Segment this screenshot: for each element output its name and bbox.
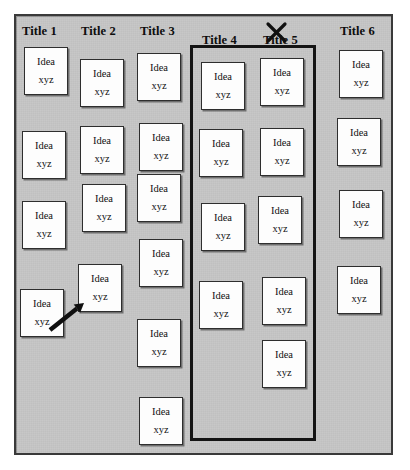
idea-card[interactable]: Ideaxyz (337, 118, 381, 166)
idea-card-body: xyz (215, 231, 230, 242)
idea-card-title: Idea (150, 329, 168, 340)
idea-card-body: xyz (36, 159, 51, 170)
idea-card[interactable]: Ideaxyz (80, 59, 124, 107)
idea-card[interactable]: Ideaxyz (139, 239, 183, 287)
idea-card-title: Idea (212, 139, 230, 150)
idea-card-title: Idea (271, 206, 289, 217)
idea-card-title: Idea (350, 276, 368, 287)
idea-card-title: Idea (33, 299, 51, 310)
idea-card-body: xyz (94, 87, 109, 98)
idea-card[interactable]: Ideaxyz (78, 264, 122, 312)
idea-card[interactable]: Ideaxyz (199, 281, 243, 329)
idea-card[interactable]: Ideaxyz (139, 123, 183, 171)
idea-card-body: xyz (151, 347, 166, 358)
idea-card-body: xyz (153, 425, 168, 436)
idea-card-title: Idea (35, 211, 53, 222)
idea-card-body: xyz (213, 157, 228, 168)
idea-card-title: Idea (350, 128, 368, 139)
idea-card-body: xyz (213, 309, 228, 320)
idea-card[interactable]: Ideaxyz (137, 53, 181, 101)
idea-card-body: xyz (272, 224, 287, 235)
idea-card-body: xyz (276, 368, 291, 379)
idea-card[interactable]: Ideaxyz (339, 190, 383, 238)
idea-card[interactable]: Ideaxyz (137, 319, 181, 367)
idea-card-body: xyz (151, 202, 166, 213)
idea-card-body: xyz (36, 229, 51, 240)
idea-card-title: Idea (273, 138, 291, 149)
idea-card-title: Idea (275, 350, 293, 361)
column-title-5[interactable]: Title 5 (263, 33, 298, 48)
idea-card-body: xyz (151, 81, 166, 92)
idea-card-body: xyz (153, 151, 168, 162)
idea-card[interactable]: Ideaxyz (260, 128, 304, 176)
idea-card-title: Idea (93, 136, 111, 147)
column-title-6[interactable]: Title 6 (340, 24, 375, 39)
idea-card-body: xyz (94, 154, 109, 165)
idea-card-title: Idea (273, 68, 291, 79)
idea-card-title: Idea (152, 133, 170, 144)
idea-card[interactable]: Ideaxyz (22, 201, 66, 249)
idea-card-body: xyz (34, 317, 49, 328)
idea-card-title: Idea (95, 194, 113, 205)
column-title-3[interactable]: Title 3 (140, 24, 175, 39)
idea-card-body: xyz (351, 294, 366, 305)
idea-card-body: xyz (96, 212, 111, 223)
idea-card-body: xyz (153, 267, 168, 278)
idea-card-title: Idea (91, 274, 109, 285)
idea-card[interactable]: Ideaxyz (201, 62, 245, 110)
idea-card-title: Idea (352, 60, 370, 71)
idea-board-root: Title 1Title 2Title 3Title 4Title 5Title… (0, 0, 410, 470)
idea-card-body: xyz (276, 305, 291, 316)
idea-card-body: xyz (38, 75, 53, 86)
idea-card-body: xyz (353, 78, 368, 89)
idea-card-body: xyz (215, 90, 230, 101)
idea-card[interactable]: Ideaxyz (80, 126, 124, 174)
idea-card-title: Idea (35, 141, 53, 152)
idea-card-body: xyz (274, 86, 289, 97)
idea-card-title: Idea (150, 63, 168, 74)
idea-card-title: Idea (212, 291, 230, 302)
idea-card[interactable]: Ideaxyz (262, 277, 306, 325)
idea-card-title: Idea (37, 57, 55, 68)
idea-card[interactable]: Ideaxyz (199, 129, 243, 177)
idea-card-title: Idea (352, 200, 370, 211)
column-title-4[interactable]: Title 4 (202, 33, 237, 48)
column-title-2[interactable]: Title 2 (81, 24, 116, 39)
idea-card[interactable]: Ideaxyz (24, 47, 68, 95)
idea-card[interactable]: Ideaxyz (337, 266, 381, 314)
idea-card-body: xyz (274, 156, 289, 167)
idea-card-title: Idea (214, 72, 232, 83)
idea-card-title: Idea (214, 213, 232, 224)
idea-card[interactable]: Ideaxyz (258, 196, 302, 244)
idea-card[interactable]: Ideaxyz (22, 131, 66, 179)
idea-card-title: Idea (93, 69, 111, 80)
idea-card-title: Idea (152, 249, 170, 260)
idea-card-title: Idea (150, 184, 168, 195)
idea-card[interactable]: Ideaxyz (260, 58, 304, 106)
idea-card[interactable]: Ideaxyz (201, 203, 245, 251)
idea-card-body: xyz (351, 146, 366, 157)
idea-card-title: Idea (152, 407, 170, 418)
idea-card-body: xyz (353, 218, 368, 229)
idea-card[interactable]: Ideaxyz (137, 174, 181, 222)
idea-card[interactable]: Ideaxyz (139, 397, 183, 445)
idea-card[interactable]: Ideaxyz (262, 340, 306, 388)
idea-card[interactable]: Ideaxyz (339, 50, 383, 98)
column-title-1[interactable]: Title 1 (22, 24, 57, 39)
idea-card[interactable]: Ideaxyz (20, 289, 64, 337)
idea-card-body: xyz (92, 292, 107, 303)
idea-card[interactable]: Ideaxyz (82, 184, 126, 232)
idea-card-title: Idea (275, 287, 293, 298)
